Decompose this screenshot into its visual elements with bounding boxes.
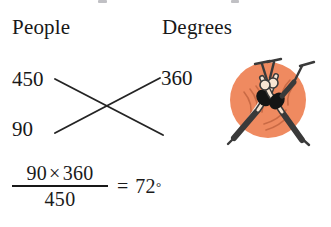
value-degrees-top: 360 [161, 68, 193, 89]
result-equation: 90×360 450 = 72° [12, 163, 161, 209]
numerator-right-term: 360 [63, 162, 94, 184]
gymnast-b-head [260, 80, 270, 90]
fraction-denominator: 450 [42, 187, 79, 209]
cross-line-up [55, 78, 160, 133]
result-value: 72 [135, 176, 156, 196]
crossed-gymnasts-icon [214, 52, 326, 152]
fraction-numerator: 90×360 [23, 163, 96, 185]
worksheet-page: People Degrees 450 360 90 90×360 450 = 7… [0, 0, 331, 227]
cross-line-down [55, 79, 163, 135]
numerator-left-term: 90 [26, 162, 47, 184]
cropped-text-remnant-left [98, 0, 107, 3]
multiplication-sign: × [47, 162, 63, 184]
degree-symbol: ° [156, 180, 161, 193]
column-header-people: People [12, 17, 70, 38]
column-header-degrees: Degrees [162, 17, 232, 38]
cropped-text-remnant-right [231, 0, 239, 3]
value-people-top: 450 [12, 69, 44, 90]
equals-sign: = [117, 176, 128, 196]
fraction: 90×360 450 [12, 163, 108, 209]
value-people-bottom: 90 [12, 119, 33, 140]
